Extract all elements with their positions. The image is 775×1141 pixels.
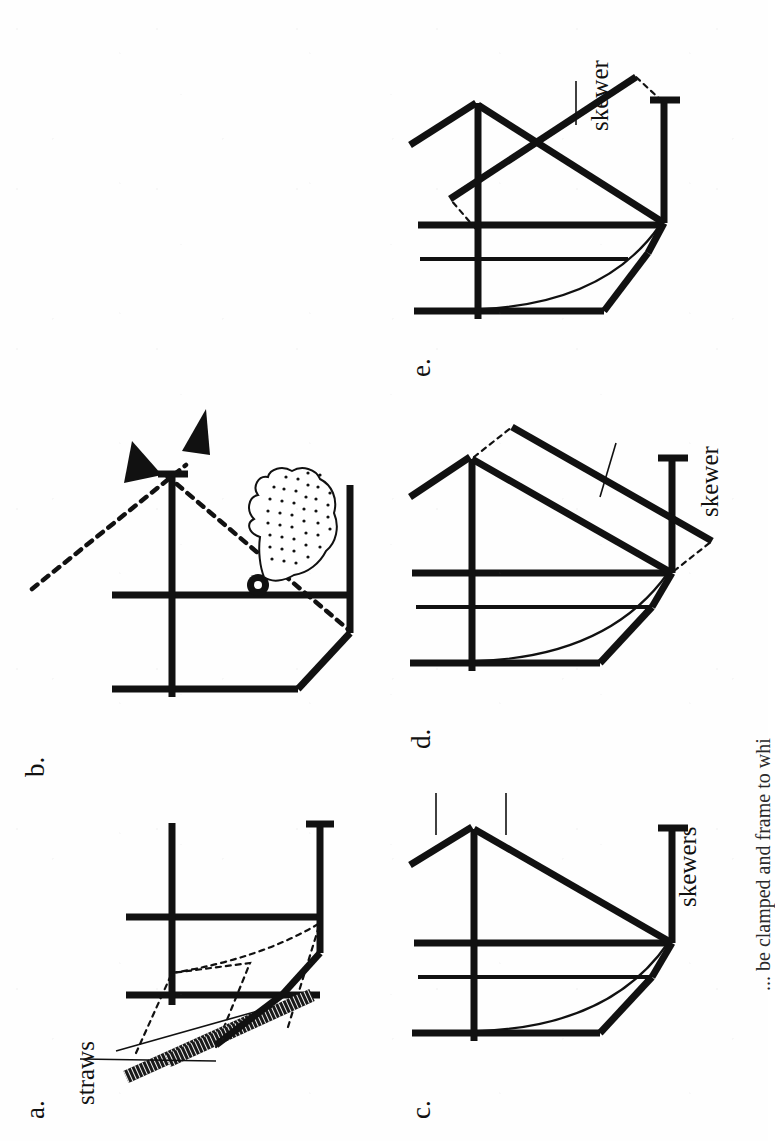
skewer-label-e: skewer (586, 60, 614, 131)
panel-d-drawing (400, 413, 740, 753)
skewer-label-d: skewer (696, 446, 724, 517)
panel-e-drawing (400, 41, 740, 381)
panel-b-drawing (20, 451, 350, 781)
panel-d-label: d. (406, 729, 437, 749)
dashed-pivot-line-upper (32, 465, 186, 589)
panel-d: d. skewer (400, 413, 740, 753)
panel-a-drawing (20, 803, 350, 1123)
panel-a-label: a. (20, 1100, 51, 1119)
dashed-offset-link-bottom (674, 541, 712, 571)
dashed-construction-line-long (172, 923, 320, 973)
straws-label: straws (72, 1041, 100, 1105)
dashed-offset-link-bottom (636, 77, 662, 101)
panel-e-label: e. (406, 358, 437, 377)
skewer-lower-diagonal (474, 829, 672, 943)
pivot-dot-highlight (254, 581, 262, 589)
panel-c: c. skewers (400, 793, 740, 1123)
skewer-offset-parallel (512, 427, 712, 541)
angled-bottom-bar (298, 633, 350, 689)
dashed-offset-link-top (474, 427, 512, 457)
panel-b-label: b. (20, 757, 51, 777)
pointing-hand (249, 468, 337, 581)
arrow-head-down (182, 409, 210, 455)
panel-b: b. (20, 451, 350, 781)
panel-e: e. skewer (400, 41, 740, 381)
arrow-head-up (124, 441, 162, 483)
skewer-main-diagonal (472, 459, 672, 573)
skewer-upper-diagonal (410, 457, 470, 497)
angled-bottom-bar (282, 953, 320, 995)
skewer-upper-diagonal (410, 103, 476, 145)
skewer-upper-diagonal (410, 827, 472, 865)
figure-caption: ... be clamped and frame to whi (752, 738, 775, 991)
straws-leader-upper (80, 1059, 216, 1061)
panel-c-label: c. (406, 1100, 437, 1119)
dashed-construction-line-bottom (288, 923, 320, 1027)
skewers-label: skewers (674, 826, 702, 907)
panel-a: a. straws (20, 803, 350, 1123)
